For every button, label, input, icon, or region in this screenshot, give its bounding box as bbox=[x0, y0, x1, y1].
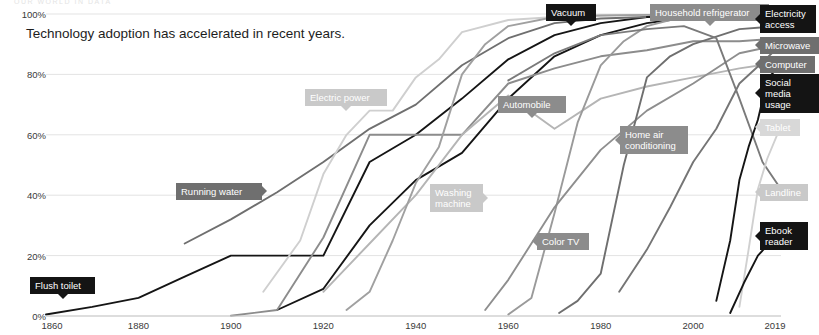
inline-label-household-refrigerator: Household refrigerator bbox=[650, 4, 769, 21]
series-label-text: Microwave bbox=[765, 40, 810, 51]
callout-pointer-icon bbox=[58, 294, 68, 299]
callout-pointer-icon bbox=[341, 106, 351, 111]
inline-label-electric-power: Electric power bbox=[305, 89, 387, 106]
edge-label-landline: Landline bbox=[760, 184, 808, 201]
edge-label-computer: Computer bbox=[760, 56, 815, 73]
edge-label-electricity-access: Electricity access bbox=[760, 5, 816, 33]
inline-label-color-tv: Color TV bbox=[537, 233, 589, 250]
inline-label-vacuum: Vacuum bbox=[546, 4, 596, 21]
x-tick-label: 1900 bbox=[220, 320, 241, 331]
edge-label-tablet: Tablet bbox=[760, 119, 800, 136]
callout-pointer-icon bbox=[755, 40, 760, 50]
inline-label-flush-toilet: Flush toilet bbox=[30, 277, 95, 294]
series-label-text: Computer bbox=[765, 59, 807, 70]
series-line-vacuum bbox=[277, 15, 781, 310]
y-tick-label: 0% bbox=[6, 311, 46, 322]
technology-adoption-chart: OUR WORLD IN DATA 0%20%40%60%80%100% 186… bbox=[0, 0, 819, 335]
callout-pointer-icon bbox=[755, 187, 760, 197]
callout-pointer-icon bbox=[615, 135, 620, 145]
callout-pointer-icon bbox=[532, 236, 537, 246]
series-label-text: Home air conditioning bbox=[625, 129, 676, 151]
series-label-text: Electricity access bbox=[765, 8, 806, 30]
inline-label-washing-machine: Washing machine bbox=[430, 184, 483, 212]
x-tick-label: 1940 bbox=[405, 320, 426, 331]
series-lines bbox=[46, 14, 781, 316]
series-label-text: Household refrigerator bbox=[655, 7, 750, 18]
series-label-text: Washing machine bbox=[435, 187, 472, 209]
series-label-text: Color TV bbox=[542, 236, 579, 247]
series-line-computer bbox=[619, 44, 781, 292]
inline-label-home-air-conditioning: Home air conditioning bbox=[620, 126, 688, 154]
edge-label-social-media-usage: Social media usage bbox=[760, 74, 819, 113]
series-label-text: Landline bbox=[765, 187, 801, 198]
series-line-microwave bbox=[559, 26, 781, 313]
edge-label-ebook-reader: Ebook reader bbox=[760, 222, 808, 250]
callout-pointer-icon bbox=[755, 59, 760, 69]
series-line-electric-power bbox=[263, 14, 781, 292]
callout-pointer-icon bbox=[566, 21, 576, 26]
x-tick-label: 1880 bbox=[128, 320, 149, 331]
x-tick-label: 1980 bbox=[590, 320, 611, 331]
gridlines bbox=[46, 14, 781, 316]
y-tick-label: 20% bbox=[6, 250, 46, 261]
edge-label-microwave: Microwave bbox=[760, 37, 819, 54]
callout-pointer-icon bbox=[755, 122, 760, 132]
x-tick-label: 2019 bbox=[764, 320, 785, 331]
series-line-flush-toilet bbox=[46, 14, 781, 315]
inline-label-automobile: Automobile bbox=[498, 96, 566, 113]
series-label-text: Ebook reader bbox=[765, 225, 792, 247]
callout-pointer-icon bbox=[705, 21, 715, 26]
callout-pointer-icon bbox=[262, 186, 267, 196]
chart-headline: Technology adoption has accelerated in r… bbox=[26, 26, 345, 41]
x-tick-label: 1960 bbox=[498, 320, 519, 331]
y-tick-label: 40% bbox=[6, 190, 46, 201]
series-label-text: Tablet bbox=[765, 122, 790, 133]
callout-pointer-icon bbox=[755, 231, 760, 241]
callout-pointer-icon bbox=[755, 14, 760, 24]
series-line-household-refrigerator bbox=[347, 14, 782, 310]
series-label-text: Electric power bbox=[310, 92, 370, 103]
callout-pointer-icon bbox=[755, 88, 760, 98]
series-label-text: Automobile bbox=[503, 99, 551, 110]
y-tick-label: 80% bbox=[6, 69, 46, 80]
callout-pointer-icon bbox=[527, 113, 537, 118]
series-label-text: Social media usage bbox=[765, 77, 791, 110]
x-tick-label: 2000 bbox=[683, 320, 704, 331]
inline-label-running-water: Running water bbox=[176, 183, 262, 200]
series-label-text: Running water bbox=[181, 186, 242, 197]
callout-pointer-icon bbox=[483, 193, 488, 203]
x-tick-label: 1920 bbox=[313, 320, 334, 331]
y-tick-label: 60% bbox=[6, 129, 46, 140]
x-tick-label: 1860 bbox=[41, 320, 62, 331]
series-label-text: Flush toilet bbox=[35, 280, 81, 291]
series-label-text: Vacuum bbox=[551, 7, 585, 18]
plot-area bbox=[0, 0, 819, 335]
y-tick-label: 100% bbox=[6, 9, 46, 20]
